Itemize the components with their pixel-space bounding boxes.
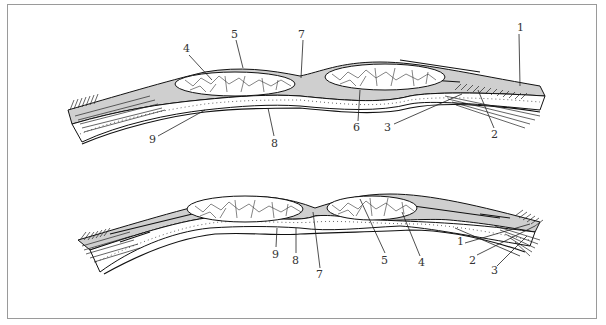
label-4: 4 (418, 256, 425, 269)
label-4: 4 (183, 42, 190, 55)
label-5: 5 (231, 28, 238, 41)
label-8: 8 (292, 254, 299, 267)
lower-cell-cluster-left (187, 196, 303, 222)
label-2: 2 (491, 128, 498, 141)
label-1: 1 (457, 235, 464, 248)
diagram-canvas: 1 2 3 4 5 6 7 8 9 (0, 0, 606, 325)
label-3: 3 (384, 121, 391, 134)
label-6: 6 (353, 121, 360, 134)
upper-cell-cluster-left (175, 72, 295, 96)
label-9: 9 (149, 133, 156, 146)
label-5: 5 (381, 254, 388, 267)
upper-panel: 1 2 3 4 5 6 7 8 9 (68, 21, 545, 150)
label-1: 1 (517, 21, 524, 34)
label-8: 8 (271, 137, 278, 150)
label-2: 2 (469, 254, 476, 267)
label-7: 7 (298, 28, 305, 41)
label-9: 9 (272, 248, 279, 261)
label-7: 7 (316, 268, 323, 281)
upper-cell-cluster-right (325, 64, 445, 90)
lower-panel: 9 8 7 5 4 1 2 3 (78, 194, 543, 281)
label-3: 3 (491, 264, 498, 277)
lower-labels: 9 8 7 5 4 1 2 3 (272, 235, 498, 281)
